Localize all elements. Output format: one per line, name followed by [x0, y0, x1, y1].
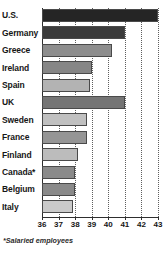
category-label: Greece	[2, 45, 40, 55]
category-label: Italy	[2, 202, 40, 212]
gridline	[141, 8, 142, 217]
bar	[42, 61, 92, 74]
category-label: France	[2, 132, 40, 142]
tick-label: 36	[38, 220, 47, 229]
tick-label: 39	[87, 220, 96, 229]
bar	[42, 131, 87, 144]
gridline	[158, 8, 159, 217]
category-label: Belgium	[2, 184, 40, 194]
bar-chart: U.S.GermanyGreeceIrelandSpainUKSwedenFra…	[0, 0, 167, 254]
category-label: Canada*	[2, 167, 40, 177]
gridline	[125, 8, 126, 217]
bar	[42, 44, 112, 57]
chart-footnote: *Salaried employees	[3, 236, 73, 245]
tick-label: 41	[120, 220, 129, 229]
bar	[42, 200, 73, 213]
bar	[42, 79, 90, 92]
tick-label: 38	[71, 220, 80, 229]
tick-label: 43	[154, 220, 163, 229]
bar	[42, 96, 125, 109]
bar	[42, 183, 75, 196]
bar	[42, 166, 75, 179]
bar	[42, 113, 87, 126]
category-label: Germany	[2, 28, 40, 38]
tick-label: 37	[54, 220, 63, 229]
category-label: UK	[2, 97, 40, 107]
category-label: U.S.	[2, 10, 40, 20]
bar	[42, 148, 78, 161]
category-label: Finland	[2, 150, 40, 160]
tick-label: 42	[137, 220, 146, 229]
tick-label: 40	[104, 220, 113, 229]
category-label: Spain	[2, 80, 40, 90]
bar	[42, 9, 158, 22]
category-label: Sweden	[2, 115, 40, 125]
plot-area: U.S.GermanyGreeceIrelandSpainUKSwedenFra…	[0, 0, 167, 254]
bar	[42, 26, 125, 39]
category-label: Ireland	[2, 63, 40, 73]
